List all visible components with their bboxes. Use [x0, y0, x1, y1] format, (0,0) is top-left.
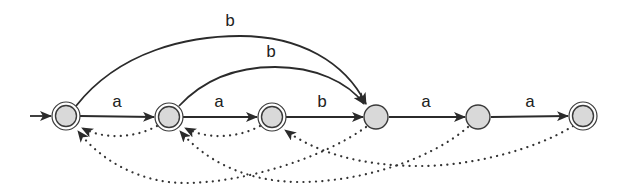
state-q2 [258, 103, 286, 131]
label-q4-q5: a [525, 93, 535, 112]
state-q1 [155, 103, 183, 131]
label-q1-q2: a [214, 93, 224, 112]
automaton-diagram: a a b a a b b [0, 0, 619, 190]
fail-q5-q2 [285, 126, 573, 166]
state-q3 [364, 105, 388, 129]
edge-q0-q1 [80, 116, 154, 117]
label-arc-inner: b [266, 43, 276, 62]
label-q2-q3: b [317, 93, 327, 112]
state-q0 [52, 102, 80, 130]
fail-q2-q1 [185, 126, 260, 136]
fail-q1-q0 [82, 126, 157, 136]
label-q0-q1: a [112, 93, 122, 112]
failure-links [78, 126, 573, 183]
label-q3-q4: a [421, 93, 431, 112]
state-q5 [569, 102, 597, 130]
edge-q4-q5 [491, 116, 568, 117]
label-arc-outer: b [225, 12, 235, 31]
state-q4 [466, 105, 490, 129]
edge-q1-q3-arc [179, 67, 364, 106]
